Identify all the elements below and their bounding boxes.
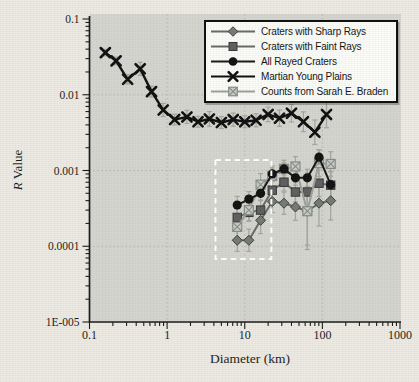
x-axis-title: Diameter (km)	[170, 351, 330, 367]
legend-item-craters-with-sharp-rays: Craters with Sharp Rays	[210, 24, 392, 39]
crater-count-figure: 0.111010010000.10.010.0010.00011E-005 R …	[0, 0, 419, 382]
legend-label: Counts from Sarah E. Braden	[261, 86, 388, 97]
legend-item-martian-young-plains: Martian Young Plains	[210, 69, 392, 84]
legend-label: All Rayed Craters	[261, 56, 337, 67]
martian-young-plains-x-icon	[210, 70, 256, 83]
y-tick-label: 0.01	[59, 89, 79, 101]
legend-label: Martian Young Plains	[261, 71, 352, 82]
counts-from-sarah-e-braden-crossed-square-icon	[210, 85, 256, 98]
y-axis-title-italic: R	[10, 182, 25, 190]
x-tick-label: 1	[164, 328, 170, 342]
y-axis-title-rest: Value	[10, 150, 25, 183]
y-tick-label: 0.0001	[48, 240, 80, 252]
x-tick-label: 10	[239, 328, 251, 342]
legend-item-craters-with-faint-rays: Craters with Faint Rays	[210, 39, 392, 54]
legend-item-all-rayed-craters: All Rayed Craters	[210, 54, 392, 69]
legend-label: Craters with Faint Rays	[261, 41, 361, 52]
y-tick-label: 1E-005	[46, 316, 80, 328]
craters-with-sharp-rays-diamond-icon	[210, 25, 256, 38]
craters-with-faint-rays-square-icon	[210, 40, 256, 53]
all-rayed-craters-circle-icon	[210, 55, 256, 68]
x-tick-label: 100	[313, 328, 331, 342]
x-tick-label: 0.1	[82, 328, 97, 342]
y-tick-label: 0.1	[65, 13, 80, 25]
y-tick-label: 0.001	[54, 165, 80, 177]
legend: Craters with Sharp RaysCraters with Fain…	[204, 20, 398, 103]
y-axis-title: R Value	[10, 129, 26, 211]
legend-label: Craters with Sharp Rays	[261, 26, 366, 37]
legend-item-counts-from-sarah-e-braden: Counts from Sarah E. Braden	[210, 84, 392, 99]
x-tick-label: 1000	[388, 328, 412, 342]
